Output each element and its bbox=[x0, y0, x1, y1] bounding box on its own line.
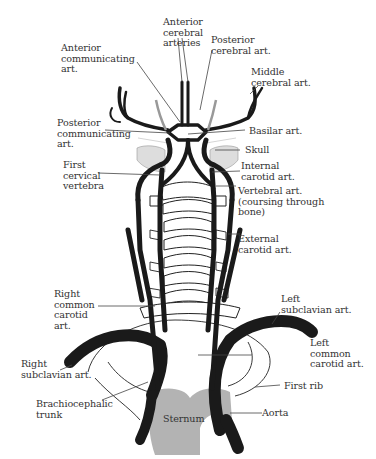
label-posterior-communicating-art: Posterior communicating art. bbox=[57, 118, 131, 150]
label-right-subclavian-art: Right subclavian art. bbox=[21, 359, 92, 380]
label-anterior-cerebral-arteries: Anterior cerebral arteries bbox=[163, 17, 203, 49]
label-sternum: Sternum bbox=[163, 414, 204, 425]
label-brachiocephalic-trunk: Brachiocephalic trunk bbox=[36, 399, 113, 420]
label-middle-cerebral-art: Middle cerebral art. bbox=[251, 67, 311, 88]
label-first-cervical-vertebra: First cervical vertebra bbox=[63, 160, 104, 192]
label-right-common-carotid-art: Right common carotid art. bbox=[54, 289, 95, 331]
label-posterior-cerebral-art: Posterior cerebral art. bbox=[211, 35, 271, 56]
label-anterior-communicating-art: Anterior communicating art. bbox=[61, 43, 135, 75]
label-first-rib: First rib bbox=[284, 381, 323, 392]
label-internal-carotid-art: Internal carotid art. bbox=[241, 161, 295, 182]
label-basilar-art: Basilar art. bbox=[249, 126, 302, 137]
artery-anatomy-diagram: Anterior cerebral arteries Posterior cer… bbox=[0, 0, 376, 459]
label-skull: Skull bbox=[245, 145, 269, 156]
label-external-carotid-art: External carotid art. bbox=[238, 234, 292, 255]
label-aorta: Aorta bbox=[262, 408, 288, 419]
label-vertebral-art: Vertebral art. (coursing through bone) bbox=[238, 186, 324, 218]
label-left-common-carotid-art: Left common carotid art. bbox=[310, 338, 364, 370]
label-left-subclavian-art: Left subclavian art. bbox=[281, 294, 352, 315]
